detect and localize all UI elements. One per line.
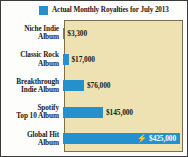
chart-row: Spotify Top 10 Album $145,000 [1, 99, 188, 125]
category-label: Niche Indie Album [1, 25, 63, 41]
bar-zone: $145,000 [63, 99, 188, 125]
chart-legend: Actual Monthly Royalties for July 2013 [39, 4, 169, 17]
royalties-bar-chart: Actual Monthly Royalties for July 2013 N… [0, 0, 188, 157]
bar[interactable]: ⚡ $425,000 [63, 133, 180, 144]
bar-value-label: $145,000 [103, 108, 133, 117]
bar-value-label: $3,300 [64, 29, 87, 38]
category-label: Spotify Top 10 Album [1, 104, 63, 120]
category-label-line: Album [1, 139, 59, 147]
bar-rows: Niche Indie Album $3,300 Classic Rock Al… [1, 20, 188, 152]
bar-value-label: $17,000 [69, 55, 95, 64]
bar-zone: $76,000 [63, 73, 188, 99]
legend-swatch-icon [39, 6, 48, 15]
bar-zone: $3,300 [63, 20, 188, 46]
bar-zone: ⚡ $425,000 [63, 126, 188, 152]
lightning-bolt-icon: ⚡ [137, 134, 149, 142]
chart-row: Global Hit Album ⚡ $425,000 [1, 126, 188, 152]
bar-zone: $17,000 [63, 46, 188, 72]
category-label: Breakthrough Indie Album [1, 78, 63, 94]
category-label-line: Album [1, 60, 59, 68]
chart-row: Breakthrough Indie Album $76,000 [1, 73, 188, 99]
chart-row: Classic Rock Album $17,000 [1, 46, 188, 72]
category-label: Classic Rock Album [1, 51, 63, 67]
category-label: Global Hit Album [1, 131, 63, 147]
category-label-line: Indie Album [1, 86, 59, 94]
bar[interactable] [63, 107, 103, 118]
category-label-line: Top 10 Album [1, 112, 59, 120]
category-label-line: Album [1, 33, 59, 41]
chart-row: Niche Indie Album $3,300 [1, 20, 188, 46]
bar[interactable] [63, 80, 84, 91]
legend-label: Actual Monthly Royalties for July 2013 [52, 7, 169, 14]
bar-inline-group: ⚡ $425,000 [137, 134, 180, 143]
bar-value-label: $76,000 [84, 81, 110, 90]
bar-value-label: $425,000 [149, 134, 180, 143]
